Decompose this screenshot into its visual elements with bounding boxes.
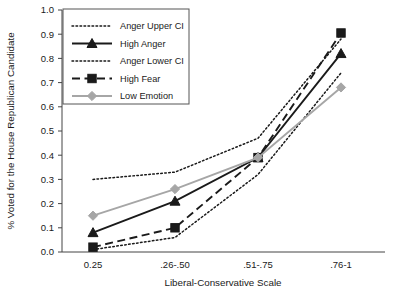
legend-item-label: Anger Lower CI (120, 56, 184, 66)
x-tick-label: 0.25 (84, 259, 103, 270)
y-tick-label: 0.3 (41, 174, 54, 185)
y-tick-label: 0.1 (41, 222, 54, 233)
legend: Anger Upper CIHigh AngerAnger Lower CIHi… (63, 9, 189, 104)
x-tick-label: .76-1 (330, 259, 352, 270)
y-tick-label: 0.0 (41, 246, 54, 257)
y-tick-label: 0.9 (41, 29, 54, 40)
y-axis-ticks: 0.00.10.20.30.40.50.60.70.80.91.0 (41, 4, 62, 257)
data-point-square (337, 29, 345, 37)
data-point-triangle (170, 196, 180, 205)
legend-item-label: Anger Upper CI (120, 21, 184, 31)
y-tick-label: 0.4 (41, 150, 54, 161)
y-tick-label: 0.6 (41, 101, 54, 112)
y-tick-label: 0.7 (41, 77, 54, 88)
y-tick-label: 0.8 (41, 53, 54, 64)
data-point-diamond (170, 184, 179, 193)
x-tick-label: .51-.75 (243, 259, 273, 270)
y-tick-label: 1.0 (41, 4, 54, 15)
x-axis-ticks: 0.25.26-.50.51-.75.76-1 (84, 259, 352, 270)
x-axis-title: Liberal-Conservative Scale (164, 277, 282, 288)
x-tick-label: .26-.50 (160, 259, 190, 270)
legend-item-label: Low Emotion (120, 91, 173, 101)
series-line (93, 87, 341, 215)
legend-item-label: High Fear (120, 74, 160, 84)
data-point-diamond (88, 211, 97, 220)
legend-item-label: High Anger (120, 39, 165, 49)
data-point-square (88, 74, 96, 82)
chart-canvas: 0.00.10.20.30.40.50.60.70.80.91.0 0.25.2… (0, 0, 397, 293)
data-point-square (171, 224, 179, 232)
y-axis-title: % Voted for the House Republican Candida… (5, 32, 16, 230)
data-point-square (89, 243, 97, 251)
chart-figure: 0.00.10.20.30.40.50.60.70.80.91.0 0.25.2… (0, 0, 397, 293)
y-tick-label: 0.5 (41, 125, 54, 136)
data-point-triangle (336, 49, 346, 58)
y-tick-label: 0.2 (41, 198, 54, 209)
